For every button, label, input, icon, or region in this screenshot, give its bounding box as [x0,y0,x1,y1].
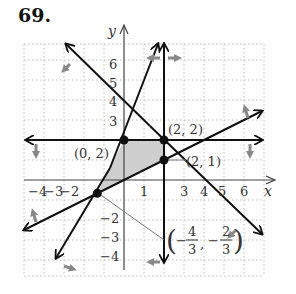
svg-text:4: 4 [109,94,117,109]
svg-text:): ) [233,224,244,257]
svg-text:1: 1 [140,184,148,199]
svg-text:3: 3 [188,242,196,257]
svg-text:−3: −3 [100,230,119,245]
svg-text:−: − [208,233,219,248]
coordinate-plane: −4 −3 −2 1 3 4 5 6 6 5 4 3 −2 −3 −4 x y … [0,0,296,294]
vertex-label-2-2: (2, 2) [168,122,203,137]
svg-text:,: , [200,236,204,251]
svg-text:2: 2 [222,224,230,239]
vertex-label-0-2: (0, 2) [74,146,109,161]
svg-text:−2: −2 [100,211,119,226]
svg-text:−2: −2 [60,184,79,199]
svg-text:3: 3 [109,114,117,129]
svg-text:5: 5 [218,184,226,199]
y-axis-label: y [107,23,117,39]
svg-text:6: 6 [240,184,248,199]
x-tick-labels: −4 −3 −2 1 3 4 5 6 [28,184,248,199]
svg-text:4: 4 [188,224,196,239]
x-axis-label: x [264,183,272,199]
line-y-eq-neg-x-plus-4 [66,44,150,126]
svg-text:4: 4 [200,184,208,199]
svg-text:−4: −4 [100,249,119,264]
svg-text:6: 6 [109,57,117,72]
vertex-label-2-1: (2, 1) [186,154,221,169]
svg-text:5: 5 [109,76,117,91]
svg-text:3: 3 [180,184,188,199]
svg-text:−: − [176,233,187,248]
graph-figure: 69. [0,0,296,294]
svg-text:3: 3 [222,242,230,257]
